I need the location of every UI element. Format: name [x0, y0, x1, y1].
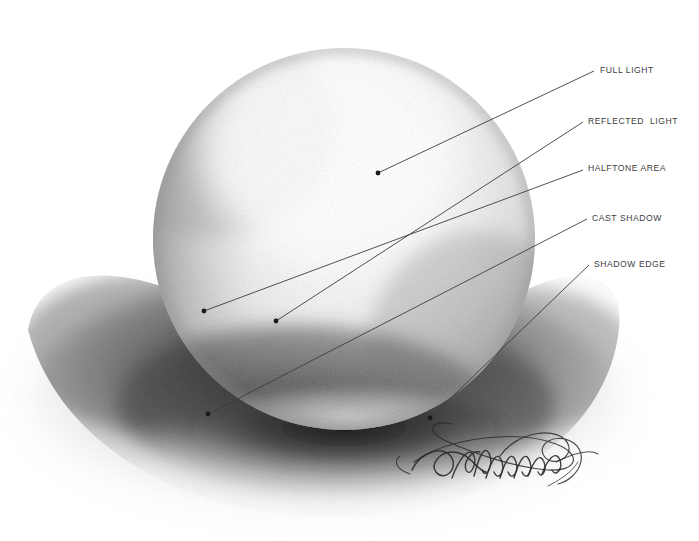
leader-dot-shadow-edge	[428, 416, 433, 421]
annotation-label-halftone-area: HALFTONE AREA	[588, 164, 666, 173]
sphere-value-study-illustration	[0, 0, 699, 541]
annotation-label-reflected-light: REFLECTED LIGHT	[588, 117, 678, 126]
annotation-label-shadow-edge: SHADOW EDGE	[594, 260, 665, 269]
leader-dot-full-light	[376, 171, 381, 176]
pencil-drawing-canvas: FULL LIGHT REFLECTED LIGHT HALFTONE AREA…	[0, 0, 699, 541]
leader-dot-reflected-light	[274, 319, 279, 324]
leader-dot-cast-shadow	[206, 412, 211, 417]
annotation-label-cast-shadow: CAST SHADOW	[592, 214, 662, 223]
leader-dot-halftone-area	[202, 309, 207, 314]
annotation-label-full-light: FULL LIGHT	[600, 66, 654, 75]
